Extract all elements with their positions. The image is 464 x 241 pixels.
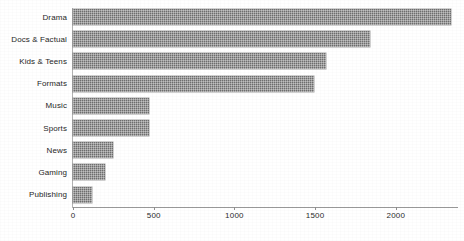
- x-axis-tick-label: 500: [147, 211, 161, 220]
- category-label: Formats: [0, 76, 70, 92]
- x-axis-tick-label: 1500: [306, 211, 325, 220]
- category-label: Music: [0, 98, 70, 114]
- bar-fill: [73, 164, 105, 180]
- bar-sports: [73, 120, 149, 136]
- x-axis-tick-mark: [315, 207, 316, 210]
- category-label: News: [0, 142, 70, 158]
- x-axis-tick-mark: [396, 207, 397, 210]
- bar-gaming: [73, 164, 105, 180]
- category-label: Publishing: [0, 187, 70, 203]
- x-axis-tick-label: 1000: [225, 211, 244, 220]
- bar-formats: [73, 76, 314, 92]
- bar-fill: [73, 142, 113, 158]
- bar-publishing: [73, 187, 92, 203]
- category-label: Drama: [0, 9, 70, 25]
- horizontal-bar-chart: DramaDocs & FactualKids & TeensFormatsMu…: [0, 0, 464, 241]
- category-label: Kids & Teens: [0, 53, 70, 69]
- bar-fill: [73, 98, 149, 114]
- bar-fill: [73, 53, 326, 69]
- category-label: Docs & Factual: [0, 31, 70, 47]
- category-label: Gaming: [0, 164, 70, 180]
- category-label: Sports: [0, 120, 70, 136]
- x-axis-tick-label: 2000: [387, 211, 406, 220]
- bar-music: [73, 98, 149, 114]
- x-axis-tick-mark: [154, 207, 155, 210]
- bar-news: [73, 142, 113, 158]
- x-axis-tick-label: 0: [71, 211, 76, 220]
- x-axis-tick-mark: [234, 207, 235, 210]
- bar-fill: [73, 76, 314, 92]
- bar-fill: [73, 9, 451, 25]
- bar-fill: [73, 187, 92, 203]
- x-axis-tick-mark: [73, 207, 74, 210]
- bar-fill: [73, 120, 149, 136]
- x-axis-line: [73, 207, 458, 208]
- bar-docs-factual: [73, 31, 370, 47]
- bar-kids-teens: [73, 53, 326, 69]
- bar-fill: [73, 31, 370, 47]
- bar-drama: [73, 9, 451, 25]
